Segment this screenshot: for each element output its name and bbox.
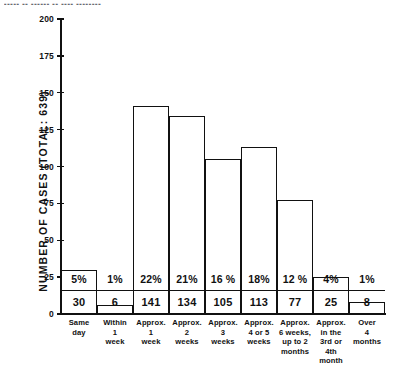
x-axis-category-label: Approx.4 or 5weeks xyxy=(241,318,277,370)
value-cell-divider xyxy=(97,290,133,291)
bar-count-label: 25 xyxy=(313,290,349,313)
bar-count-label: 113 xyxy=(241,290,277,313)
bar-count-label: 105 xyxy=(205,290,241,313)
value-cell-divider xyxy=(241,290,277,291)
bar-value-cell: 12 %77 xyxy=(277,267,313,313)
value-cell-divider xyxy=(169,290,205,291)
bar-count-label: 141 xyxy=(133,290,169,313)
value-cell-divider xyxy=(61,290,97,291)
bar-value-cell: 5%30 xyxy=(61,267,97,313)
bar-percent-label: 22% xyxy=(133,267,169,290)
bar-percent-label: 12 % xyxy=(277,267,313,290)
bar-value-cell: 21%134 xyxy=(169,267,205,313)
bar-value-cell: 1%8 xyxy=(349,267,385,313)
y-axis-tick-label: 125 xyxy=(24,125,54,135)
x-axis-category-label: Approx.2weeks xyxy=(169,318,205,370)
y-axis-tick-label: 150 xyxy=(24,88,54,98)
bar-count-label: 134 xyxy=(169,290,205,313)
bar-percent-label: 4% xyxy=(313,267,349,290)
value-cell-divider xyxy=(205,290,241,291)
bar-value-cell: 22%141 xyxy=(133,267,169,313)
bar-count-label: 6 xyxy=(97,290,133,313)
bar-count-label: 30 xyxy=(61,290,97,313)
x-axis-category-label: Approx.1week xyxy=(133,318,169,370)
bar-chart: ▪▪▪▪▪ ▪▪ ▪▪▪▪▪▪ ▪▪ ▪▪▪▪ ▪▪▪▪▪▪▪▪ NUMBER … xyxy=(0,0,408,377)
bar-percent-label: 16 % xyxy=(205,267,241,290)
value-labels-band: 5%301%622%14121%13416 %10518%11312 %774%… xyxy=(61,267,385,313)
y-axis-tick-label: 0 xyxy=(24,309,54,319)
bar-percent-label: 1% xyxy=(97,267,133,290)
y-axis-tick-label: 100 xyxy=(24,162,54,172)
y-axis-title: NUMBER OF CASES (TOTAL: 639) xyxy=(37,86,49,296)
y-axis-tick-label: 200 xyxy=(24,14,54,24)
x-axis-category-labels: SamedayWithin1weekApprox.1weekApprox.2we… xyxy=(61,318,385,370)
clipped-caption-text: ▪▪▪▪▪ ▪▪ ▪▪▪▪▪▪ ▪▪ ▪▪▪▪ ▪▪▪▪▪▪▪▪ xyxy=(4,0,204,5)
bar-value-cell: 16 %105 xyxy=(205,267,241,313)
bar-percent-label: 18% xyxy=(241,267,277,290)
value-cell-divider xyxy=(277,290,313,291)
x-axis-category-label: Approx.3weeks xyxy=(205,318,241,370)
bar-count-label: 8 xyxy=(349,290,385,313)
bar-percent-label: 5% xyxy=(61,267,97,290)
value-cell-divider xyxy=(349,290,385,291)
y-axis-tick-label: 25 xyxy=(24,272,54,282)
x-axis-baseline xyxy=(61,313,386,315)
x-axis-category-label: Approx.6 weeks,up to 2months xyxy=(277,318,313,370)
x-axis-category-label: Approx.in the3rd or 4thmonth xyxy=(313,318,349,370)
y-axis-tick-label: 75 xyxy=(24,198,54,208)
bar-value-cell: 1%6 xyxy=(97,267,133,313)
bar-value-cell: 18%113 xyxy=(241,267,277,313)
bar-value-cell: 4%25 xyxy=(313,267,349,313)
x-axis-category-label: Within1week xyxy=(97,318,133,370)
y-axis-tick-label: 175 xyxy=(24,51,54,61)
bar-percent-label: 1% xyxy=(349,267,385,290)
value-cell-divider xyxy=(133,290,169,291)
y-axis-tick-label: 50 xyxy=(24,235,54,245)
x-axis-category-label: Over4months xyxy=(349,318,385,370)
bar-count-label: 77 xyxy=(277,290,313,313)
x-axis-category-label: Sameday xyxy=(61,318,97,370)
bar-percent-label: 21% xyxy=(169,267,205,290)
value-cell-divider xyxy=(313,290,349,291)
